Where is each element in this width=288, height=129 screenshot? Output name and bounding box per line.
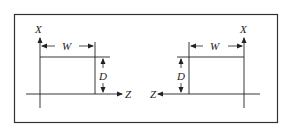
diagram-canvas: X Z W D X Z W D (0, 0, 288, 129)
x-axis-label-left: X (34, 23, 43, 35)
d-label-left: D (98, 70, 107, 82)
w-label-right: W (210, 40, 220, 52)
d-label-right: D (176, 70, 185, 82)
z-axis-label-left: Z (125, 88, 132, 100)
w-label-left: W (62, 40, 72, 52)
right-panel: X Z W D (150, 23, 260, 108)
outer-frame (15, 15, 278, 123)
z-axis-label-right: Z (150, 88, 157, 100)
left-panel: X Z W D (26, 23, 132, 108)
x-axis-label-right: X (239, 23, 248, 35)
